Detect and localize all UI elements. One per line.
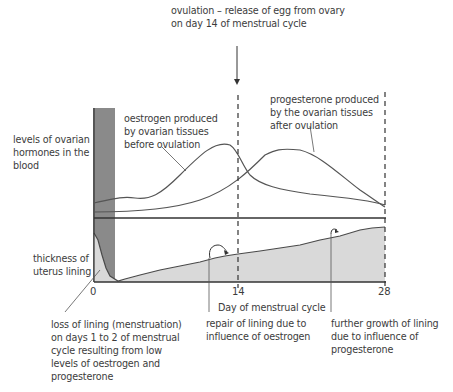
arrowhead-icon (234, 79, 240, 85)
x-tick-28: 28 (378, 286, 391, 297)
progesterone-curve (94, 149, 385, 212)
lining-axis-label: thickness of uterus lining (33, 252, 91, 278)
menstruation-annotation: loss of lining (menstruation) on days 1 … (51, 318, 182, 383)
ovulation-annotation: ovulation – release of egg from ovary on… (171, 4, 345, 30)
x-axis-label: Day of menstrual cycle (218, 301, 326, 314)
repair-annotation: repair of lining due to influence of oes… (206, 317, 310, 343)
growth-annotation: further growth of lining due to influenc… (331, 317, 439, 356)
progesterone-annotation: progesterone produced by the ovarian tis… (270, 93, 379, 132)
x-tick-0: 0 (90, 286, 96, 297)
x-tick-14: 14 (232, 286, 245, 297)
oestrogen-annotation: oestrogen produced by ovarian tissues be… (124, 112, 218, 151)
hormone-axis-label: levels of ovarian hormones in the blood (13, 133, 90, 172)
